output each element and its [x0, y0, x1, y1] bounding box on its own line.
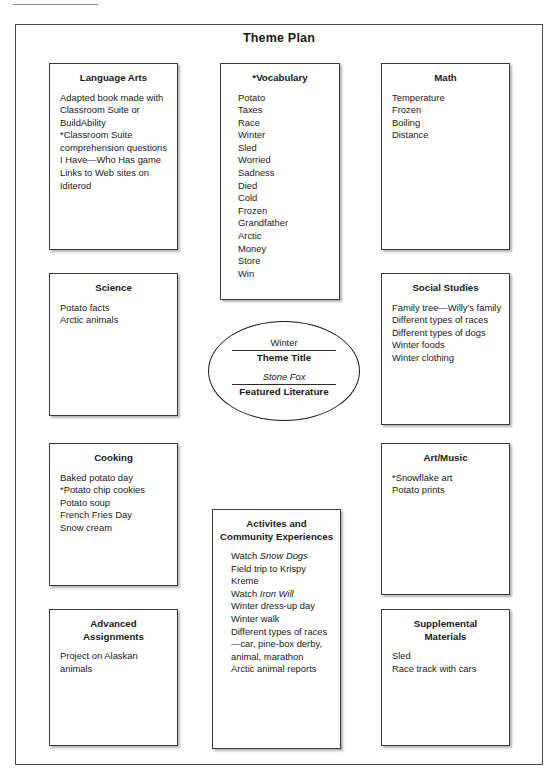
card-item: Distance — [392, 129, 502, 142]
card-body-science: Potato factsArctic animals — [60, 302, 170, 327]
card-title-advanced-line2: Assignments — [54, 631, 173, 644]
card-title-language-arts: Language Arts — [54, 72, 173, 85]
card-item: Worried — [238, 154, 332, 167]
card-item: Temperature — [392, 92, 502, 105]
card-vocabulary: *Vocabulary PotatoTaxesRaceWinterSledWor… — [220, 63, 340, 300]
card-item: Potato prints — [392, 484, 502, 497]
card-item: Arctic — [238, 230, 332, 243]
card-item: Boiling — [392, 117, 502, 130]
card-item: Race — [238, 117, 332, 130]
card-title-activities: Activites and Community Experiences — [217, 518, 336, 543]
card-item: *Potato chip cookies — [60, 484, 170, 497]
card-cooking: Cooking Baked potato day*Potato chip coo… — [49, 443, 178, 586]
featured-literature-value: Stone Fox — [232, 371, 336, 385]
card-title-supplemental-line1: Supplemental — [386, 618, 505, 631]
card-item: Links to Web sites on Iditerod — [60, 167, 170, 192]
card-body-activities: Watch Snow DogsField trip to Krispy Krem… — [231, 550, 334, 676]
card-item: Snow cream — [60, 522, 170, 535]
card-item: Family tree—Willy's family — [392, 302, 502, 315]
card-item: Winter clothing — [392, 352, 502, 365]
card-advanced-assignments: Advanced Assignments Project on Alaskan … — [49, 609, 178, 746]
card-item: Winter dress-up day — [231, 600, 334, 613]
card-item: Winter — [238, 129, 332, 142]
card-item: Different types of races — [392, 314, 502, 327]
card-item: Frozen — [392, 104, 502, 117]
card-supplemental-materials: Supplemental Materials SledRace track wi… — [381, 609, 510, 746]
card-title-supplemental-line2: Materials — [386, 631, 505, 644]
card-item: French Fries Day — [60, 509, 170, 522]
card-item: Arctic animals — [60, 314, 170, 327]
card-body-language-arts: Adapted book made with Classroom Suite o… — [60, 92, 170, 193]
card-item: I Have—Who Has game — [60, 154, 170, 167]
card-body-cooking: Baked potato day*Potato chip cookiesPota… — [60, 472, 170, 535]
card-item: Store — [238, 255, 332, 268]
theme-oval: Winter Theme Title Stone Fox Featured Li… — [208, 321, 360, 421]
theme-title-label: Theme Title — [232, 351, 336, 365]
card-title-activities-line1: Activites and — [217, 518, 336, 531]
card-item: Different types of races—car, pine-box d… — [231, 626, 334, 664]
card-body-math: TemperatureFrozenBoilingDistance — [392, 92, 502, 142]
card-item: Project on Alaskan animals — [60, 650, 170, 675]
card-item: Sled — [392, 650, 502, 663]
card-item: *Snowflake art — [392, 472, 502, 485]
card-title-advanced-assignments: Advanced Assignments — [54, 618, 173, 643]
card-title-supplemental-materials: Supplemental Materials — [386, 618, 505, 643]
scan-top-rule — [13, 4, 98, 5]
card-item: Winter foods — [392, 339, 502, 352]
card-item: Adapted book made with Classroom Suite o… — [60, 92, 170, 130]
card-title-advanced-line1: Advanced — [54, 618, 173, 631]
card-body-supplemental-materials: SledRace track with cars — [392, 650, 502, 675]
card-item: Watch Snow Dogs — [231, 550, 334, 563]
card-item: Baked potato day — [60, 472, 170, 485]
card-title-social-studies: Social Studies — [386, 282, 505, 295]
card-item-title: Snow Dogs — [260, 550, 308, 561]
card-title-activities-line2: Community Experiences — [217, 531, 336, 544]
card-item: Race track with cars — [392, 663, 502, 676]
card-title-science: Science — [54, 282, 173, 295]
card-social-studies: Social Studies Family tree—Willy's famil… — [381, 273, 510, 425]
card-art-music: Art/Music *Snowflake artPotato prints — [381, 443, 510, 595]
card-item: Sadness — [238, 167, 332, 180]
card-item: Cold — [238, 192, 332, 205]
featured-literature-slot: Stone Fox Featured Literature — [232, 371, 336, 405]
card-title-math: Math — [386, 72, 505, 85]
card-science: Science Potato factsArctic animals — [49, 273, 178, 416]
card-title-cooking: Cooking — [54, 452, 173, 465]
card-item: Sled — [238, 142, 332, 155]
card-item: Winter walk — [231, 613, 334, 626]
theme-plan-frame: Theme Plan Language Arts Adapted book ma… — [15, 24, 543, 765]
card-title-vocabulary: *Vocabulary — [225, 72, 335, 85]
card-item: Win — [238, 268, 332, 281]
card-item: Taxes — [238, 104, 332, 117]
card-item-title: Iron Will — [260, 588, 294, 599]
card-title-art-music: Art/Music — [386, 452, 505, 465]
card-item: Potato — [238, 92, 332, 105]
card-item: Different types of dogs — [392, 327, 502, 340]
card-item: *Classroom Suite comprehension questions — [60, 129, 170, 154]
card-item: Potato facts — [60, 302, 170, 315]
card-body-art-music: *Snowflake artPotato prints — [392, 472, 502, 497]
card-item: Arctic animal reports — [231, 663, 334, 676]
card-body-vocabulary: PotatoTaxesRaceWinterSledWorriedSadnessD… — [238, 92, 332, 281]
card-body-social-studies: Family tree—Willy's familyDifferent type… — [392, 302, 502, 365]
card-item: Died — [238, 180, 332, 193]
card-item: Watch Iron Will — [231, 588, 334, 601]
card-item: Grandfather — [238, 217, 332, 230]
card-item: Money — [238, 243, 332, 256]
featured-literature-label: Featured Literature — [232, 385, 336, 399]
card-language-arts: Language Arts Adapted book made with Cla… — [49, 63, 178, 250]
theme-title-slot: Winter Theme Title — [232, 337, 336, 371]
card-item: Field trip to Krispy Kreme — [231, 563, 334, 588]
card-item: Potato soup — [60, 497, 170, 510]
card-item: Frozen — [238, 205, 332, 218]
card-math: Math TemperatureFrozenBoilingDistance — [381, 63, 510, 250]
page-title: Theme Plan — [16, 31, 542, 45]
card-body-advanced-assignments: Project on Alaskan animals — [60, 650, 170, 675]
theme-title-value: Winter — [232, 337, 336, 351]
card-activities-community-experiences: Activites and Community Experiences Watc… — [212, 509, 341, 749]
